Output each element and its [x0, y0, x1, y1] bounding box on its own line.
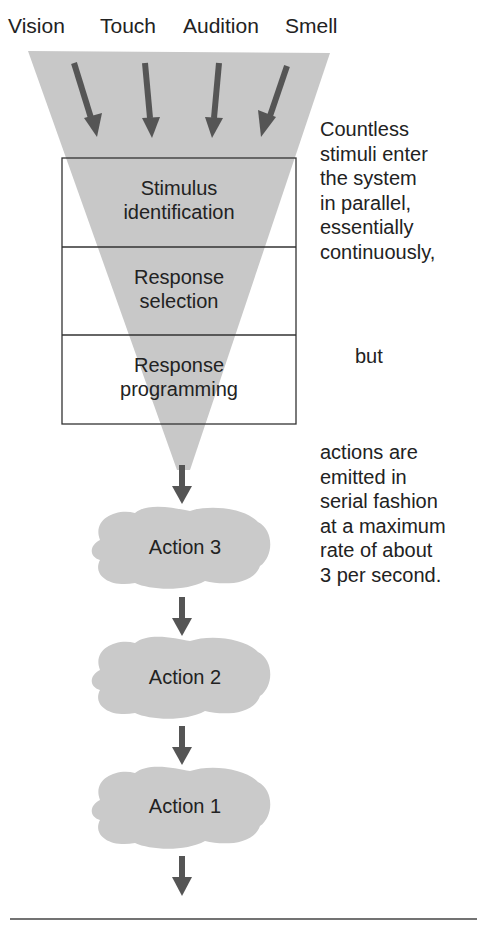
stage-line: identification [62, 200, 296, 224]
annotation-line: the system [320, 166, 435, 191]
action-label-1: Action 1 [100, 795, 270, 818]
annotation-but: but [355, 344, 383, 369]
input-label-audition: Audition [183, 14, 259, 38]
action-label-2: Action 2 [100, 666, 270, 689]
input-label-smell: Smell [285, 14, 338, 38]
arrow-to-action1-icon [172, 726, 192, 765]
stage-stimulus-identification: Stimulus identification [62, 176, 296, 224]
annotation-line: actions are [320, 440, 446, 465]
annotation-serial: actions are emitted in serial fashion at… [320, 440, 446, 587]
input-label-touch: Touch [100, 14, 156, 38]
stage-line: programming [62, 377, 296, 401]
annotation-line: rate of about [320, 538, 446, 563]
funnel-shape [28, 51, 330, 470]
annotation-line: in parallel, [320, 191, 435, 216]
stage-line: Response [62, 265, 296, 289]
annotation-line: serial fashion [320, 489, 446, 514]
annotation-parallel: Countless stimuli enter the system in pa… [320, 117, 435, 264]
arrow-to-action2-icon [172, 597, 192, 636]
annotation-line: continuously, [320, 240, 435, 265]
action-label-3: Action 3 [100, 536, 270, 559]
annotation-line: at a maximum [320, 514, 446, 539]
annotation-line: emitted in [320, 465, 446, 490]
annotation-line: essentially [320, 215, 435, 240]
stage-line: Stimulus [62, 176, 296, 200]
stage-line: Response [62, 353, 296, 377]
stage-line: selection [62, 289, 296, 313]
stage-response-programming: Response programming [62, 353, 296, 401]
arrow-to-action3-icon [172, 465, 192, 504]
annotation-line: stimuli enter [320, 142, 435, 167]
annotation-line: 3 per second. [320, 563, 446, 588]
stage-response-selection: Response selection [62, 265, 296, 313]
input-label-vision: Vision [8, 14, 65, 38]
arrow-out-icon [172, 856, 192, 896]
annotation-line: Countless [320, 117, 435, 142]
